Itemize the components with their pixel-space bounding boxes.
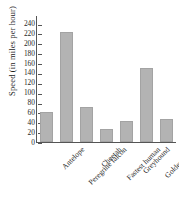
bar bbox=[60, 32, 73, 142]
x-axis-category-labels: AntelopePeregrine falconCheetahFastest h… bbox=[36, 145, 179, 198]
y-tick-label: 40 bbox=[28, 118, 35, 127]
y-tick-label: 240 bbox=[24, 19, 35, 28]
bar bbox=[140, 68, 153, 142]
y-tick-label: 180 bbox=[24, 49, 35, 58]
plot-area: 020406080100120140160180200220240 bbox=[36, 20, 176, 143]
y-axis-title: Speed (in miles per hour) bbox=[7, 0, 17, 115]
y-tick-label: 20 bbox=[28, 128, 35, 137]
bar-series bbox=[37, 19, 176, 142]
bar bbox=[100, 129, 113, 142]
bar bbox=[160, 119, 173, 142]
bar bbox=[80, 107, 93, 142]
x-tick-label: Antelope bbox=[60, 145, 86, 171]
y-tick-label: 60 bbox=[28, 108, 35, 117]
x-axis-line bbox=[36, 142, 176, 143]
y-tick-label: 140 bbox=[24, 68, 35, 77]
bar bbox=[40, 112, 53, 142]
bar-chart: Speed (in miles per hour) 02040608010012… bbox=[0, 0, 179, 198]
y-tick-label: 0 bbox=[31, 138, 35, 147]
y-tick-label: 100 bbox=[24, 88, 35, 97]
y-tick-label: 200 bbox=[24, 39, 35, 48]
y-tick-label: 120 bbox=[24, 78, 35, 87]
y-tick-label: 80 bbox=[28, 98, 35, 107]
bar bbox=[120, 121, 133, 142]
y-tick-label: 160 bbox=[24, 59, 35, 68]
y-tick-label: 220 bbox=[24, 29, 35, 38]
y-tick-mark bbox=[38, 143, 42, 144]
